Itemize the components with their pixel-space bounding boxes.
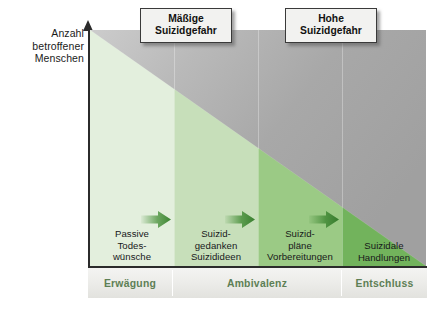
stage-label-suicidal-acts: Suizidale Handlungen [342,240,426,263]
diagram-canvas: Anzahl betroffener Menschen [0,0,444,313]
phase-band: Erwägung Ambivalenz Entschluss [88,268,427,298]
phase-erwaegung-label: Erwägung [104,278,156,289]
phase-ambivalenz-label: Ambivalenz [227,278,287,289]
phase-entschluss-label: Entschluss [356,278,414,289]
stage-label-suicidal-thoughts: Suizid- gedanken Suizidideen [174,228,258,263]
arrow-stage-3-to-4 [309,211,339,228]
callout-moderate-risk: Mäßige Suizidgefahr [140,8,232,43]
y-axis-label: Anzahl betroffener Menschen [8,27,84,65]
arrow-stage-1-to-2 [141,211,171,228]
column-divider-3 [342,30,343,266]
callout-high-risk: Hohe Suizidgefahr [285,8,377,43]
arrow-stage-2-to-3 [225,211,255,228]
phase-erwaegung: Erwägung [88,268,172,298]
stage-label-suicide-plans: Suizid- pläne Vorbereitungen [258,228,342,263]
stage-label-passive-death-wishes: Passive Todes- wünsche [90,228,174,263]
phase-entschluss: Entschluss [342,268,427,298]
phase-ambivalenz: Ambivalenz [173,268,341,298]
